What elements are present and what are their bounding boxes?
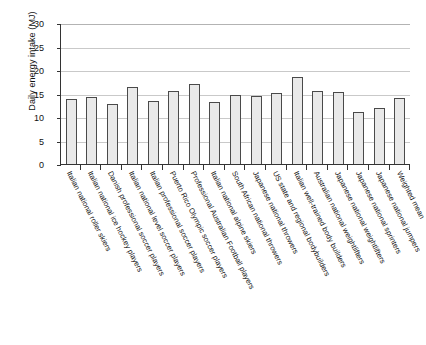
bar [209, 102, 220, 164]
bar [127, 87, 138, 164]
bar [189, 84, 200, 164]
y-tick-label: 10 [4, 114, 44, 123]
x-label-slot: Australian national weightlifters [307, 170, 328, 342]
bar-slot [82, 24, 103, 164]
y-tick-label: 15 [4, 91, 44, 100]
x-label-slot: Italian national roller skiers [60, 170, 81, 342]
y-tick-label: 25 [4, 44, 44, 53]
x-label-slot: Professional Australian Football players [184, 170, 205, 342]
bar-slot [123, 24, 144, 164]
bar-slot [328, 24, 349, 164]
x-label-slot: Italian well-trained body builders [287, 170, 308, 342]
bar-slot [266, 24, 287, 164]
bar [333, 92, 344, 164]
x-label-slot: Danish professional soccer players [101, 170, 122, 342]
y-tick-label: 20 [4, 67, 44, 76]
bar [168, 91, 179, 164]
x-label-slot: Italian national ice hockey players [81, 170, 102, 342]
bar [312, 91, 323, 164]
x-axis-label: Weighted mean [395, 170, 425, 220]
bar [107, 104, 118, 164]
bar-slot [225, 24, 246, 164]
bar [374, 108, 385, 164]
bar-slot [164, 24, 185, 164]
bar-slot [61, 24, 82, 164]
y-tick-label: 5 [4, 138, 44, 147]
bar-slot [287, 24, 308, 164]
x-label-slot: South African national throwers [225, 170, 246, 342]
bar-slot [102, 24, 123, 164]
bar [394, 98, 405, 164]
bar [292, 77, 303, 164]
y-tick-label: 30 [4, 20, 44, 29]
x-label-slot: Japanese national weightlifters [328, 170, 349, 342]
y-tick-label: 0 [4, 161, 44, 170]
bar [86, 97, 97, 164]
bar [230, 95, 241, 164]
bar [251, 96, 262, 164]
x-label-slot: Japanese national sprinters [348, 170, 369, 342]
x-label-slot: Italian national alpine skiers [204, 170, 225, 342]
bars-container [61, 24, 410, 164]
bar-slot [246, 24, 267, 164]
bar [66, 99, 77, 164]
x-label-slot: Puerto Rico Olympic soccer players [163, 170, 184, 342]
bar [271, 93, 282, 164]
x-label-slot: US state and regional bodybuilders [266, 170, 287, 342]
bar-slot [307, 24, 328, 164]
x-label-slot: Weighted mean [390, 170, 411, 342]
bar-slot [205, 24, 226, 164]
x-label-slot: Japanese national jumpers [369, 170, 390, 342]
bar-slot [184, 24, 205, 164]
bar-slot [369, 24, 390, 164]
x-label-slot: Japanese national throwers [245, 170, 266, 342]
bar-slot [390, 24, 411, 164]
bar [353, 112, 364, 164]
bar-slot [348, 24, 369, 164]
x-label-slot: Italian national level soccer players [122, 170, 143, 342]
bar [148, 101, 159, 164]
x-axis-labels: Italian national roller skiersItalian na… [60, 170, 410, 342]
plot-area: 051015202530 [60, 24, 410, 165]
x-label-slot: Italian professional soccer players [142, 170, 163, 342]
bar-slot [143, 24, 164, 164]
